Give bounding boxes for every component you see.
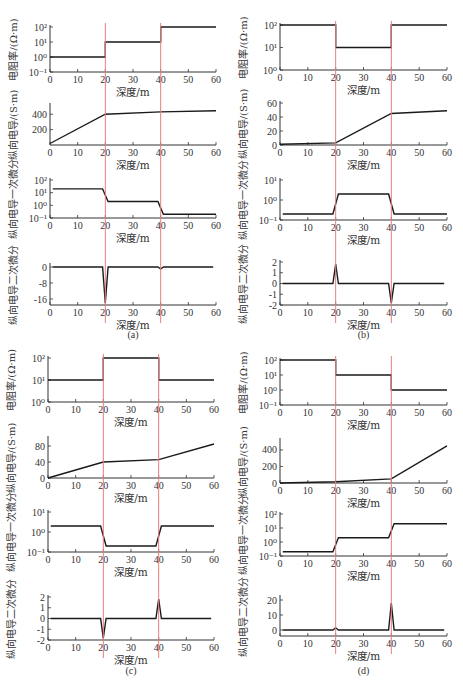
y-tick-label: 10⁰ xyxy=(263,65,277,76)
x-axis-label: 深度/m xyxy=(347,570,381,582)
y-axis-label: 电阻率/(Ω·m) xyxy=(5,349,17,411)
x-tick-label: 50 xyxy=(414,638,424,649)
y-tick-label: -1 xyxy=(269,289,277,300)
x-tick-label: 50 xyxy=(414,558,424,569)
y-tick-label: 10⁻¹ xyxy=(259,551,277,562)
x-tick-label: 60 xyxy=(209,480,219,491)
x-tick-label: 30 xyxy=(359,407,369,418)
x-tick-label: 50 xyxy=(183,147,193,158)
y-tick-label: 400 xyxy=(32,109,47,120)
y-axis-label: 纵向电导/(S·m) xyxy=(237,426,249,497)
x-tick-label: 10 xyxy=(303,72,313,83)
y-tick-label: 40 xyxy=(267,112,277,123)
y-tick-label: 10⁻¹ xyxy=(29,67,47,78)
x-tick-label: 10 xyxy=(303,222,313,233)
y-tick-label: -1 xyxy=(37,624,45,635)
x-tick-label: 30 xyxy=(359,638,369,649)
data-series xyxy=(280,25,447,48)
y-tick-label: 0 xyxy=(42,262,47,273)
x-tick-label: 10 xyxy=(71,480,81,491)
x-axis-label: 深度/m xyxy=(116,159,150,171)
x-tick-label: 30 xyxy=(128,307,138,318)
data-series xyxy=(50,27,216,57)
data-series xyxy=(51,526,214,546)
y-tick-label: 1 xyxy=(40,602,45,613)
panel-caption: (a) xyxy=(127,329,138,341)
y-tick-label: 200 xyxy=(32,124,47,135)
x-tick-label: 60 xyxy=(209,554,219,565)
y-tick-label: 10² xyxy=(264,20,277,31)
y-tick-label: 10⁰ xyxy=(33,52,47,63)
y-tick-label: 10⁻¹ xyxy=(259,400,277,411)
x-axis-label: 深度/m xyxy=(347,84,381,96)
x-tick-label: 50 xyxy=(181,642,191,653)
x-tick-label: 60 xyxy=(442,558,452,569)
data-series xyxy=(53,267,213,303)
y-tick-label: 60 xyxy=(267,98,277,109)
y-tick-label: -8 xyxy=(39,278,47,289)
x-tick-label: 30 xyxy=(128,147,138,158)
x-tick-label: 30 xyxy=(126,642,136,653)
y-axis-label: 电阻率/(Ω·m) xyxy=(237,16,249,78)
x-tick-label: 0 xyxy=(278,222,283,233)
subplot-2: 0102030405060深度/m200400纵向电导/(S·m) xyxy=(7,90,221,171)
x-tick-label: 50 xyxy=(183,220,193,231)
x-tick-label: 0 xyxy=(46,480,51,491)
y-tick-label: 2 xyxy=(40,592,45,603)
x-tick-label: 50 xyxy=(183,74,193,85)
panel-caption: (c) xyxy=(125,665,136,677)
x-tick-label: 50 xyxy=(414,307,424,318)
y-tick-label: 1 xyxy=(272,267,277,278)
x-axis-label: 深度/m xyxy=(114,566,148,578)
x-axis-label: 深度/m xyxy=(116,86,150,98)
subplot-4: 0102030405060深度/m0-8-16纵向电导二次微分 xyxy=(7,245,221,331)
panel-caption: (d) xyxy=(358,665,370,677)
figure-canvas: 0102030405060深度/m10⁻¹10⁰10¹10²电阻率/(Ω·m)0… xyxy=(0,0,463,690)
data-series xyxy=(280,360,447,390)
y-tick-label: 10⁰ xyxy=(31,397,45,408)
x-tick-label: 0 xyxy=(48,74,53,85)
x-tick-label: 10 xyxy=(303,407,313,418)
y-axis-label: 电阻率/(Ω·m) xyxy=(237,351,249,413)
y-tick-label: 200 xyxy=(262,461,277,472)
x-tick-label: 10 xyxy=(71,404,81,415)
x-tick-label: 0 xyxy=(278,638,283,649)
x-tick-label: 0 xyxy=(278,485,283,496)
panel-b: 0102030405060深度/m10⁰10¹10²电阻率/(Ω·m)01020… xyxy=(237,16,452,341)
x-tick-label: 10 xyxy=(73,307,83,318)
subplot-4: 0102030405060深度/m01020纵向电导二次微分 xyxy=(237,577,452,663)
y-tick-label: 0 xyxy=(40,473,45,484)
y-tick-label: 20 xyxy=(267,595,277,606)
subplot-3: 0102030405060深度/m10⁻¹10⁰10¹纵向电导一次微分 xyxy=(237,160,452,246)
x-tick-label: 0 xyxy=(48,220,53,231)
y-axis-label: 纵向电导一次微分 xyxy=(237,160,249,240)
x-axis-label: 深度/m xyxy=(347,419,381,431)
y-tick-label: 10 xyxy=(267,610,277,621)
x-tick-label: 50 xyxy=(414,407,424,418)
y-axis-label: 纵向电导一次微分 xyxy=(7,159,19,239)
x-tick-label: 50 xyxy=(183,307,193,318)
x-tick-label: 30 xyxy=(359,307,369,318)
x-tick-label: 30 xyxy=(126,404,136,415)
y-tick-label: 10⁻¹ xyxy=(29,213,47,224)
x-axis-label: 深度/m xyxy=(114,416,148,428)
y-axis-label: 纵向电导一次微分 xyxy=(5,492,17,572)
subplot-3: 0102030405060深度/m10⁻¹10⁰10¹纵向电导一次微分 xyxy=(5,492,219,578)
panel-d: 0102030405060深度/m10⁻¹10⁰10¹10²电阻率/(Ω·m)0… xyxy=(237,351,452,677)
x-axis-label: 深度/m xyxy=(347,234,381,246)
subplot-2: 0102030405060深度/m04080纵向电导/(S·m) xyxy=(5,423,219,504)
y-tick-label: 10⁻¹ xyxy=(259,215,277,226)
subplot-1: 0102030405060深度/m10⁰10¹10²电阻率/(Ω·m) xyxy=(237,16,452,96)
x-tick-label: 30 xyxy=(359,147,369,158)
x-tick-label: 10 xyxy=(303,638,313,649)
x-tick-label: 30 xyxy=(126,554,136,565)
y-axis-label: 纵向电导二次微分 xyxy=(237,577,249,657)
y-tick-label: 0 xyxy=(40,613,45,624)
y-tick-label: 2 xyxy=(272,257,277,268)
x-tick-label: 60 xyxy=(211,147,221,158)
x-tick-label: 60 xyxy=(442,147,452,158)
data-series xyxy=(53,189,216,214)
y-tick-label: 10¹ xyxy=(34,37,47,48)
y-tick-label: -2 xyxy=(269,300,277,311)
y-tick-label: 10² xyxy=(34,22,47,33)
